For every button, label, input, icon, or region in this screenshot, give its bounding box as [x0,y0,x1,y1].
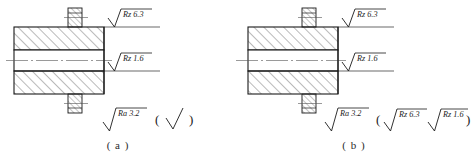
close-paren: ) [189,112,193,127]
bracket-item-1: Rz 6.3 [384,109,427,131]
panel-b: Rz 6.3 Rz 1.6 Ra 3.2 ( [236,0,472,168]
lower-wall-section [14,71,104,94]
bore-region [6,50,112,71]
bracket-item-1-label: Rz 6.3 [398,110,419,119]
panel-a-caption: ( a ) [0,139,236,151]
bore-region [236,50,346,71]
upper-key-protrusion [64,8,88,27]
general-roughness-note: Ra 3.2 ( ) [103,108,193,131]
bracket-item-2-label: Rz 1.6 [442,110,464,119]
bore-surface-callout: Rz 1.6 [104,53,160,71]
close-paren: ) [466,112,470,127]
upper-key-protrusion [298,8,322,27]
lower-wall-section [248,71,338,94]
open-paren: ( [155,112,159,127]
upper-surface-callout: Rz 6.3 [104,9,160,27]
bore-surface-label: Rz 1.6 [122,54,144,63]
panel-a: Rz 6.3 Rz 1.6 Ra 3.2 ( ) ( a [0,0,236,168]
bracket-item-2: Rz 1.6 [428,109,468,131]
upper-wall-section [14,27,104,50]
general-note-label: Ra 3.2 [339,109,361,118]
general-note-label: Ra 3.2 [117,109,139,118]
bore-surface-callout: Rz 1.6 [338,53,394,71]
general-roughness-note: Ra 3.2 ( Rz 6.3 Rz 1.6 ) [325,108,470,131]
upper-wall-section [248,27,338,50]
lower-key-protrusion [298,94,322,113]
panel-b-caption: ( b ) [236,139,472,151]
lower-key-protrusion [64,94,88,113]
basic-triangle-icon [166,108,183,129]
open-paren: ( [376,112,380,127]
upper-surface-label: Rz 6.3 [122,10,143,19]
upper-surface-callout: Rz 6.3 [338,9,394,27]
upper-surface-label: Rz 6.3 [356,10,377,19]
bore-surface-label: Rz 1.6 [356,54,378,63]
